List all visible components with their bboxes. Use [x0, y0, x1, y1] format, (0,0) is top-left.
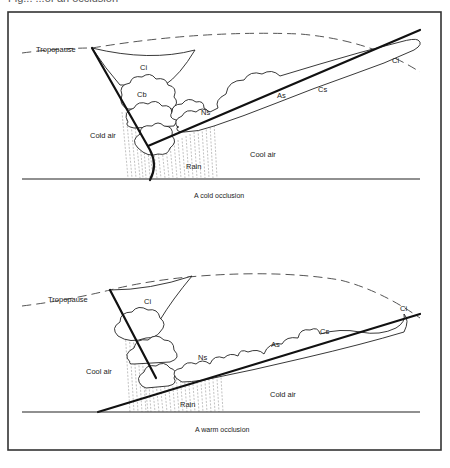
cool-air-label: Cool air [250, 150, 276, 159]
ns-label: Ns [201, 108, 210, 117]
cold-occlusion-caption: A cold occlusion [194, 192, 244, 199]
cold-air-label: Cold air [270, 390, 296, 399]
ci-label: Ci [140, 63, 147, 72]
occlusion-diagram-figure: Tropopause Ci Cb Ns As Cs Ci Cold air Co… [0, 0, 450, 468]
ns-as-cs-cloud [174, 314, 407, 382]
cold-air-label: Cold air [90, 131, 116, 140]
warm-occlusion-diagram: Tropopause Ci Ns As Cs Ci Cool air Cold … [22, 274, 420, 433]
warm-occlusion-caption: A warm occlusion [195, 426, 250, 433]
ns-label: Ns [198, 353, 207, 362]
tropopause-label: Tropopause [48, 295, 88, 304]
ci-label: Ci [144, 297, 151, 306]
as-label: As [271, 340, 280, 349]
figure-frame [8, 12, 441, 450]
cool-air-label: Cool air [86, 367, 112, 376]
cs-label: Cs [318, 85, 327, 94]
ci-end-label: Ci [392, 56, 399, 65]
cumulus-cloud [138, 363, 175, 388]
cb-label: Cb [137, 90, 147, 99]
cs-label: Cs [320, 327, 329, 336]
tropopause-label: Tropopause [36, 45, 76, 54]
cold-occlusion-diagram: Tropopause Ci Cb Ns As Cs Ci Cold air Co… [22, 30, 420, 199]
warm-front-line [148, 30, 420, 146]
rain-label: Rain [180, 400, 195, 409]
as-label: As [277, 91, 286, 100]
ci-end-label: Ci [400, 304, 407, 313]
rain-label: Rain [186, 162, 201, 171]
